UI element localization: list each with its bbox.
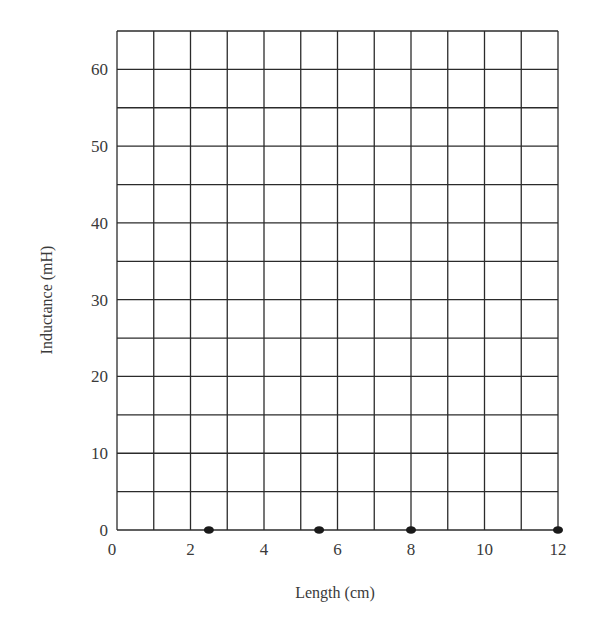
x-tick-label: 8 — [407, 540, 416, 559]
x-tick-label: 2 — [186, 540, 195, 559]
x-tick-label: 4 — [260, 540, 269, 559]
data-point — [204, 526, 214, 534]
grid — [117, 31, 558, 530]
x-tick-label: 12 — [550, 540, 567, 559]
y-tick-label: 50 — [91, 137, 108, 156]
x-tick-label: 6 — [333, 540, 342, 559]
y-tick-label: 10 — [91, 444, 108, 463]
data-point — [406, 526, 416, 534]
inductance-vs-length-chart: 0102030405060 024681012 Length (cm) Indu… — [0, 0, 598, 632]
data-point — [314, 526, 324, 534]
x-tick-label: 0 — [108, 540, 117, 559]
y-axis-ticks: 0102030405060 — [91, 60, 108, 540]
y-tick-label: 20 — [91, 367, 108, 386]
x-axis-ticks: 024681012 — [108, 540, 567, 559]
x-axis-label: Length (cm) — [295, 584, 375, 602]
y-tick-label: 60 — [91, 60, 108, 79]
data-point — [553, 526, 563, 534]
y-axis-label: Inductance (mH) — [38, 246, 56, 355]
x-tick-label: 10 — [476, 540, 493, 559]
y-tick-label: 30 — [91, 291, 108, 310]
y-tick-label: 0 — [100, 521, 109, 540]
y-tick-label: 40 — [91, 214, 108, 233]
